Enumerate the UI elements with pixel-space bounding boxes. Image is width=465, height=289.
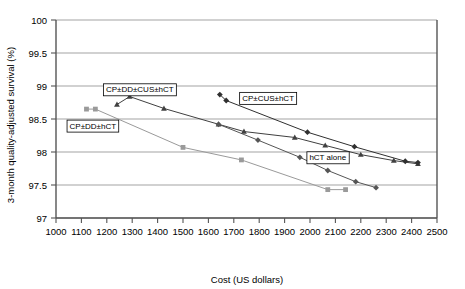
series-annotation-label: CP±CUS±hCT bbox=[242, 94, 294, 103]
x-tick-label: 1200 bbox=[96, 226, 117, 237]
y-tick-label: 97 bbox=[36, 213, 47, 224]
series-lines bbox=[86, 95, 417, 190]
series-annotation: CP±DD±hCT bbox=[67, 120, 119, 132]
x-tick-label: 2500 bbox=[426, 226, 447, 237]
grid-lines bbox=[56, 20, 437, 218]
y-axis-ticks bbox=[51, 20, 56, 218]
y-tick-label: 100 bbox=[31, 15, 47, 26]
y-tick-label: 98 bbox=[36, 147, 47, 158]
data-point-diamond bbox=[255, 137, 261, 143]
data-point-diamond bbox=[352, 144, 358, 150]
data-point-diamond bbox=[353, 179, 359, 185]
data-point-square bbox=[181, 145, 186, 150]
x-tick-label: 1300 bbox=[122, 226, 143, 237]
data-point-diamond bbox=[297, 154, 303, 160]
series-line bbox=[86, 109, 345, 190]
series-annotation: CP±CUS±hCT bbox=[240, 92, 297, 104]
series-annotation-label: CP±DD±CUS±hCT bbox=[106, 85, 174, 94]
data-point-square bbox=[93, 107, 98, 112]
x-axis-ticks bbox=[56, 218, 437, 223]
x-tick-label: 1500 bbox=[172, 226, 193, 237]
series-line bbox=[117, 97, 418, 164]
data-point-diamond bbox=[402, 158, 408, 164]
x-tick-label: 1000 bbox=[45, 226, 66, 237]
series-annotation-label: hCT alone bbox=[309, 153, 346, 162]
x-tick-label: 2000 bbox=[299, 226, 320, 237]
x-tick-label: 1800 bbox=[249, 226, 270, 237]
y-tick-label: 98.5 bbox=[29, 114, 48, 125]
series-markers bbox=[84, 92, 421, 192]
x-axis-tick-labels: 1000110012001300140015001600170018001900… bbox=[45, 226, 447, 237]
series-annotation: hCT alone bbox=[307, 152, 349, 164]
y-tick-label: 97.5 bbox=[29, 180, 48, 191]
x-axis-title: Cost (US dollars) bbox=[211, 274, 283, 285]
x-tick-label: 1900 bbox=[274, 226, 295, 237]
series-line bbox=[219, 124, 376, 187]
data-point-diamond bbox=[373, 185, 379, 191]
x-tick-label: 2200 bbox=[350, 226, 371, 237]
data-point-square bbox=[343, 187, 348, 192]
x-tick-label: 1100 bbox=[71, 226, 91, 237]
data-point-diamond bbox=[305, 129, 311, 135]
data-point-triangle bbox=[114, 101, 120, 106]
y-tick-label: 99.5 bbox=[29, 48, 48, 59]
data-point-diamond bbox=[325, 168, 331, 174]
series-annotation: CP±DD±CUS±hCT bbox=[103, 84, 176, 96]
x-tick-label: 2400 bbox=[401, 226, 422, 237]
y-axis-title: 3-month quality-adjusted survival (%) bbox=[5, 47, 16, 203]
data-point-square bbox=[325, 187, 330, 192]
x-tick-label: 1700 bbox=[223, 226, 244, 237]
y-axis-tick-labels: 9797.59898.59999.5100 bbox=[29, 15, 48, 224]
x-tick-label: 2100 bbox=[325, 226, 346, 237]
chart-figure: 1000110012001300140015001600170018001900… bbox=[0, 0, 465, 289]
series-annotation-label: CP±DD±hCT bbox=[70, 122, 117, 131]
data-point-square bbox=[239, 158, 244, 163]
x-tick-label: 1600 bbox=[198, 226, 219, 237]
data-point-square bbox=[84, 107, 89, 112]
y-tick-label: 99 bbox=[36, 81, 47, 92]
x-tick-label: 1400 bbox=[147, 226, 168, 237]
x-tick-label: 2300 bbox=[376, 226, 397, 237]
chart-canvas: 1000110012001300140015001600170018001900… bbox=[0, 0, 465, 289]
